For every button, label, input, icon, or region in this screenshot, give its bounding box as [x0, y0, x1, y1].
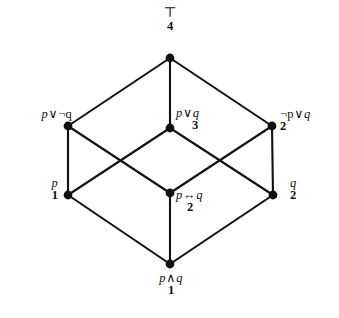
node-p_and_q[interactable]: [166, 260, 175, 269]
edge-p_or_q-to-q: [170, 128, 273, 195]
edge-not_p_or_q-to-p_iff_q: [170, 126, 272, 193]
edge-not_p_or_q-to-q: [272, 126, 273, 195]
node-p[interactable]: [64, 191, 73, 200]
edge-q-to-p_and_q: [170, 195, 273, 264]
edge-p-to-p_and_q: [68, 195, 170, 264]
edge-p_or_q-to-p: [68, 128, 170, 195]
lattice-graph: [0, 0, 339, 318]
node-top[interactable]: [166, 54, 175, 63]
node-p_or_not_q[interactable]: [64, 122, 73, 131]
edge-p_or_not_q-to-p_iff_q: [68, 126, 170, 193]
hasse-diagram-figure: ⊤ 4 p∨¬q 3 p∨q 3 ¬p∨q 2 p 1 p↔q 2 q 2 p∧…: [0, 0, 339, 318]
node-p_iff_q[interactable]: [166, 189, 175, 198]
node-not_p_or_q[interactable]: [268, 122, 277, 131]
node-q[interactable]: [269, 191, 278, 200]
edge-top-to-not_p_or_q: [170, 58, 272, 126]
edges-group: [68, 58, 273, 264]
node-p_or_q[interactable]: [166, 124, 175, 133]
edge-top-to-p_or_not_q: [68, 58, 170, 126]
